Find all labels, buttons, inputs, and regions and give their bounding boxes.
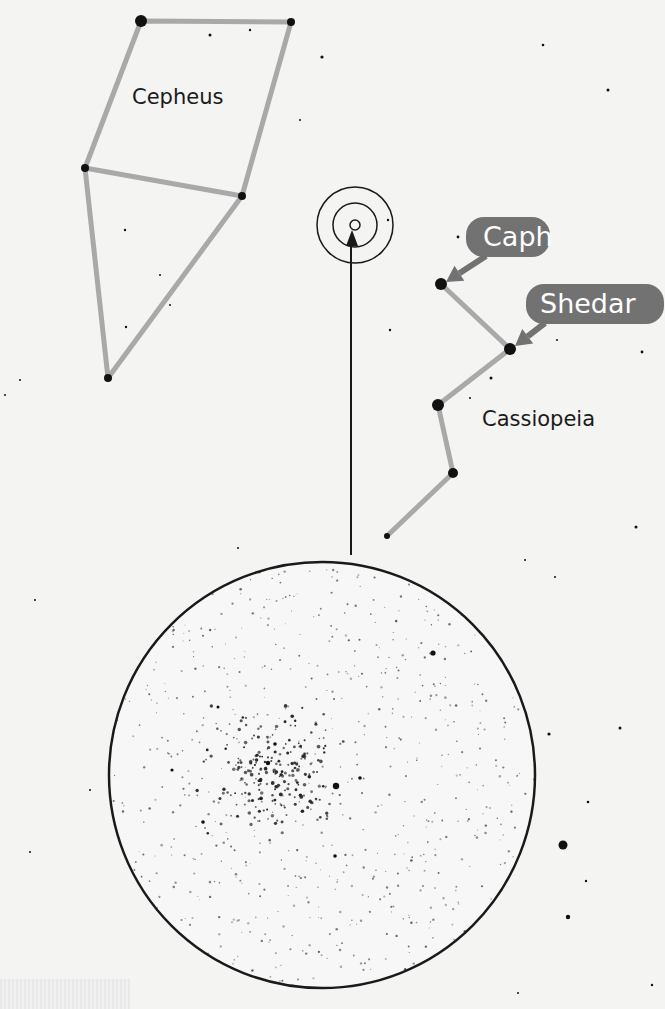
constellation-labels: CepheusCassiopeia: [132, 85, 595, 431]
star-icon: [287, 18, 295, 26]
arrowhead-icon: [346, 230, 358, 246]
star-icon: [89, 789, 91, 791]
star-icon: [29, 851, 31, 853]
star-icon: [249, 29, 251, 31]
callout-shedar: Shedar: [515, 284, 664, 346]
star-icon: [34, 599, 36, 601]
star-icon: [435, 278, 447, 290]
star-icon: [209, 34, 212, 37]
star-icon: [457, 236, 460, 239]
star-icon: [651, 984, 653, 986]
star-icon: [448, 468, 458, 478]
constellation-line: [85, 168, 242, 378]
star-icon: [104, 374, 112, 382]
star-icon: [587, 801, 590, 804]
star-icon: [641, 351, 644, 354]
callout-label: Shedar: [540, 288, 637, 319]
star-icon: [635, 526, 638, 529]
star-icon: [490, 377, 493, 380]
star-icon: [238, 192, 246, 200]
star-icon: [169, 304, 171, 306]
scan-artifact: [0, 979, 130, 1009]
star-icon: [504, 343, 516, 355]
star-icon: [517, 992, 519, 994]
star-icon: [159, 274, 161, 276]
m52-target-marker-icon: [317, 187, 393, 263]
constellation-label-cepheus: Cepheus: [132, 85, 223, 109]
star-icon: [299, 119, 301, 121]
target-ring-icon: [350, 220, 360, 230]
star-icon: [135, 15, 147, 27]
star-chart: CepheusCassiopeia CaphShedar: [0, 0, 665, 1009]
star-icon: [554, 576, 556, 578]
star-icon: [125, 326, 127, 328]
star-icon: [389, 329, 391, 331]
star-icon: [607, 89, 610, 92]
star-icon: [547, 732, 550, 735]
star-icon: [19, 379, 21, 381]
star-icon: [556, 339, 558, 341]
star-icon: [619, 727, 622, 730]
star-icon: [559, 841, 568, 850]
star-icon: [81, 164, 89, 172]
star-icon: [320, 55, 323, 58]
pointer-arrow: [346, 230, 358, 555]
callout-caph: Caph: [446, 217, 553, 282]
star-icon: [432, 399, 444, 411]
target-ring-icon: [317, 187, 393, 263]
star-icon: [237, 547, 239, 549]
star-icon: [387, 219, 389, 221]
eyepiece-view: [109, 562, 536, 988]
star-icon: [542, 44, 545, 47]
star-callouts: CaphShedar: [446, 217, 664, 346]
star-icon: [585, 880, 587, 882]
star-icon: [124, 229, 126, 231]
callout-label: Caph: [483, 221, 553, 252]
star-icon: [469, 397, 471, 399]
star-icon: [4, 394, 6, 396]
star-icon: [566, 915, 570, 919]
star-icon: [384, 533, 390, 539]
constellation-label-cassiopeia: Cassiopeia: [482, 407, 595, 431]
star-icon: [524, 559, 526, 561]
